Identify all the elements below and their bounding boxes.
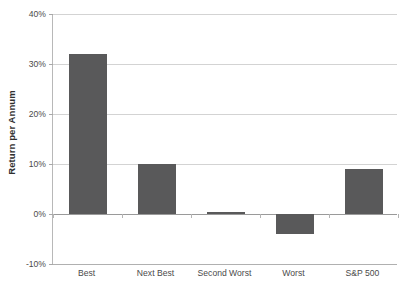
bar-slot bbox=[191, 14, 260, 264]
bar-slot bbox=[329, 14, 398, 264]
bar[interactable] bbox=[207, 212, 245, 214]
y-tick-label: -10% bbox=[26, 259, 46, 269]
bar-slot bbox=[53, 14, 122, 264]
x-tickmark bbox=[398, 214, 399, 218]
bar-chart: Return per Annum 40%30%20%10%0%-10% Best… bbox=[0, 0, 403, 299]
y-tick-label: 10% bbox=[29, 159, 46, 169]
y-tick-label: 30% bbox=[29, 59, 46, 69]
bar[interactable] bbox=[69, 54, 107, 214]
bar[interactable] bbox=[345, 169, 383, 214]
y-axis-title-label: Return per Annum bbox=[6, 90, 17, 175]
x-tick-label: S&P 500 bbox=[346, 268, 380, 278]
bar-slot bbox=[260, 14, 329, 264]
y-tick-label: 20% bbox=[29, 109, 46, 119]
x-tick-label: Best bbox=[78, 268, 95, 278]
plot-area bbox=[52, 14, 397, 264]
bar[interactable] bbox=[276, 214, 314, 234]
x-tickmark bbox=[53, 214, 54, 218]
x-tick-label: Worst bbox=[282, 268, 304, 278]
x-tick-label: Next Best bbox=[137, 268, 174, 278]
x-axis-tick-labels: BestNext BestSecond WorstWorstS&P 500 bbox=[52, 268, 397, 292]
y-tick-label: 0% bbox=[34, 209, 46, 219]
bars-layer bbox=[53, 14, 397, 264]
bar-slot bbox=[122, 14, 191, 264]
gridline-neg10 bbox=[53, 264, 397, 265]
y-tickmark bbox=[49, 264, 53, 265]
y-axis-tick-labels: 40%30%20%10%0%-10% bbox=[18, 0, 50, 264]
y-tick-label: 40% bbox=[29, 9, 46, 19]
bar[interactable] bbox=[138, 164, 176, 214]
x-tick-label: Second Worst bbox=[198, 268, 252, 278]
